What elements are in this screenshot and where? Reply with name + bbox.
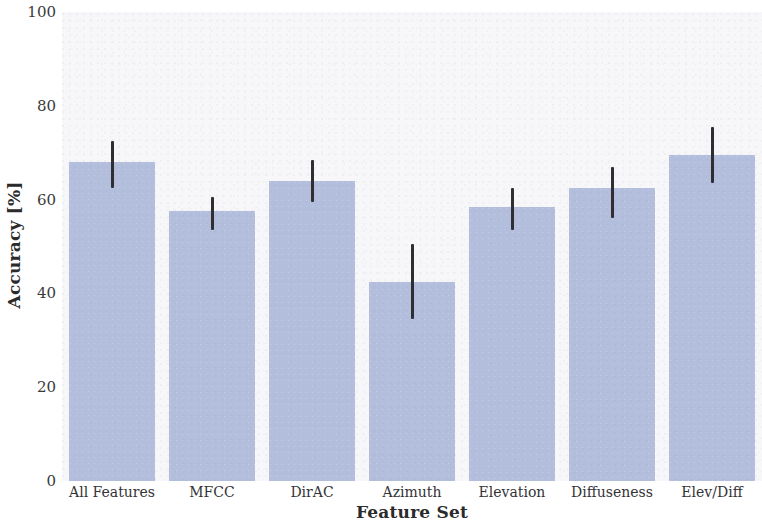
- bar: [469, 207, 555, 481]
- error-bar: [711, 127, 714, 183]
- bar: [169, 211, 255, 481]
- bar: [669, 155, 755, 481]
- x-tick-label: DirAC: [262, 484, 362, 500]
- x-tick-label: Azimuth: [362, 484, 462, 500]
- error-bar: [611, 167, 614, 219]
- error-bar: [511, 188, 514, 230]
- x-tick-label: MFCC: [162, 484, 262, 500]
- bar-chart-figure: Accuracy [%] 020406080100 All FeaturesMF…: [0, 0, 762, 524]
- y-tick-label: 80: [22, 97, 56, 115]
- y-axis-tick-labels: 020406080100: [22, 0, 56, 524]
- y-tick-label: 100: [22, 3, 56, 21]
- error-bar: [311, 160, 314, 202]
- bar: [269, 181, 355, 481]
- x-tick-label: All Features: [62, 484, 162, 500]
- plot-area: [62, 12, 762, 481]
- error-bar: [211, 197, 214, 230]
- y-tick-label: 0: [22, 472, 56, 490]
- bar: [69, 162, 155, 481]
- x-axis-label: Feature Set: [62, 502, 762, 522]
- x-tick-label: Elev/Diff: [662, 484, 762, 500]
- error-bar: [111, 141, 114, 188]
- x-tick-label: Elevation: [462, 484, 562, 500]
- bar: [569, 188, 655, 481]
- y-tick-label: 20: [22, 378, 56, 396]
- y-tick-label: 40: [22, 284, 56, 302]
- x-tick-label: Diffuseness: [562, 484, 662, 500]
- error-bar: [411, 244, 414, 319]
- y-axis-label-text: Accuracy [%]: [3, 181, 23, 308]
- y-tick-label: 60: [22, 191, 56, 209]
